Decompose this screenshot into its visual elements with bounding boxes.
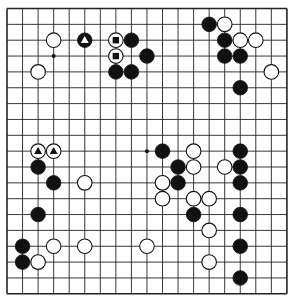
black-stone[interactable]	[233, 49, 248, 64]
stone-body	[264, 65, 279, 80]
stone-body	[249, 33, 264, 48]
stone-body	[233, 144, 248, 159]
stone-body	[46, 239, 61, 254]
black-stone[interactable]	[217, 33, 232, 48]
white-stone[interactable]	[264, 65, 279, 80]
black-stone[interactable]	[186, 207, 201, 222]
go-board[interactable]	[0, 0, 294, 304]
stone-body	[233, 239, 248, 254]
stone-body	[202, 191, 217, 206]
hoshi-dot	[52, 54, 56, 58]
stone-body	[155, 176, 170, 191]
white-stone[interactable]	[46, 239, 61, 254]
stone-body	[217, 33, 232, 48]
white-stone[interactable]	[46, 33, 61, 48]
black-stone[interactable]	[217, 49, 232, 64]
black-stone[interactable]	[233, 144, 248, 159]
stone-body	[233, 207, 248, 222]
stone-body	[233, 33, 248, 48]
stone-body	[171, 176, 186, 191]
square-marker-icon	[113, 37, 119, 43]
white-stone[interactable]	[31, 255, 46, 270]
white-stone[interactable]	[186, 144, 201, 159]
white-stone[interactable]	[109, 33, 124, 48]
black-stone[interactable]	[46, 176, 61, 191]
white-stone[interactable]	[109, 49, 124, 64]
stone-body	[186, 207, 201, 222]
white-stone[interactable]	[77, 239, 92, 254]
stone-body	[31, 255, 46, 270]
black-stone[interactable]	[233, 160, 248, 175]
black-stone[interactable]	[15, 255, 30, 270]
black-stone[interactable]	[155, 144, 170, 159]
stone-body	[77, 176, 92, 191]
stone-body	[124, 33, 139, 48]
stone-body	[202, 223, 217, 238]
white-stone[interactable]	[202, 223, 217, 238]
black-stone[interactable]	[171, 176, 186, 191]
white-stone[interactable]	[31, 144, 46, 159]
stone-body	[186, 144, 201, 159]
white-stone[interactable]	[217, 17, 232, 32]
stone-body	[202, 255, 217, 270]
stone-body	[140, 239, 155, 254]
white-stone[interactable]	[186, 160, 201, 175]
stone-body	[15, 239, 30, 254]
black-stone[interactable]	[233, 239, 248, 254]
stone-body	[186, 160, 201, 175]
white-stone[interactable]	[233, 33, 248, 48]
white-stone[interactable]	[217, 160, 232, 175]
white-stone[interactable]	[249, 33, 264, 48]
black-stone[interactable]	[233, 271, 248, 286]
stone-body	[233, 80, 248, 95]
black-stone[interactable]	[233, 80, 248, 95]
stone-body	[31, 207, 46, 222]
stone-body	[233, 176, 248, 191]
black-stone[interactable]	[124, 65, 139, 80]
black-stone[interactable]	[31, 160, 46, 175]
stone-body	[155, 144, 170, 159]
white-stone[interactable]	[46, 144, 61, 159]
stone-body	[124, 65, 139, 80]
white-stone[interactable]	[31, 65, 46, 80]
stone-body	[217, 17, 232, 32]
hoshi-dot	[145, 149, 149, 153]
black-stone[interactable]	[202, 17, 217, 32]
stone-body	[171, 160, 186, 175]
black-stone[interactable]	[31, 207, 46, 222]
black-stone[interactable]	[233, 207, 248, 222]
black-stone[interactable]	[15, 239, 30, 254]
stone-body	[46, 176, 61, 191]
white-stone[interactable]	[202, 255, 217, 270]
stone-body	[186, 191, 201, 206]
stone-body	[202, 17, 217, 32]
stone-body	[140, 49, 155, 64]
square-marker-icon	[113, 53, 119, 59]
white-stone[interactable]	[155, 176, 170, 191]
white-stone[interactable]	[155, 191, 170, 206]
white-stone[interactable]	[77, 176, 92, 191]
stone-body	[155, 191, 170, 206]
stone-body	[233, 160, 248, 175]
stone-body	[77, 239, 92, 254]
stone-body	[233, 49, 248, 64]
black-stone[interactable]	[109, 65, 124, 80]
stone-body	[217, 160, 232, 175]
white-stone[interactable]	[140, 239, 155, 254]
stone-body	[31, 65, 46, 80]
stone-body	[31, 160, 46, 175]
black-stone[interactable]	[171, 160, 186, 175]
white-stone[interactable]	[202, 191, 217, 206]
black-stone[interactable]	[124, 33, 139, 48]
stone-body	[46, 33, 61, 48]
black-stone[interactable]	[233, 176, 248, 191]
stone-body	[217, 49, 232, 64]
black-stone[interactable]	[140, 49, 155, 64]
black-stone[interactable]	[77, 33, 92, 48]
stone-body	[233, 271, 248, 286]
stone-body	[109, 65, 124, 80]
white-stone[interactable]	[186, 191, 201, 206]
stone-body	[15, 255, 30, 270]
